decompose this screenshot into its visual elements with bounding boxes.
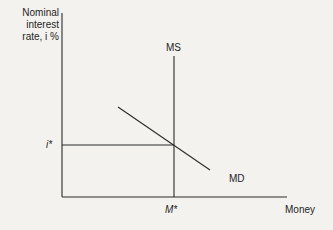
md-label: MD — [229, 173, 245, 184]
i-star-label: i* — [46, 139, 53, 150]
x-axis-label: Money — [285, 204, 315, 215]
ms-label: MS — [166, 42, 181, 53]
chart: MS MD i* M* Money — [0, 0, 333, 230]
money-demand-line — [118, 107, 210, 170]
m-star-label: M* — [165, 204, 178, 215]
